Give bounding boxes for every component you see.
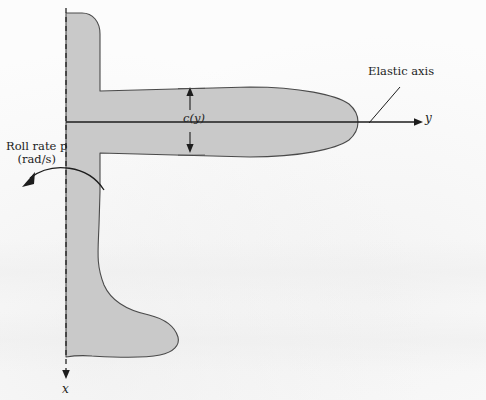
y-axis-label: y <box>425 112 432 126</box>
roll-rate-label: Roll rate p (rad/s) <box>6 140 67 166</box>
x-axis-label: x <box>62 383 69 397</box>
wing-planform-figure: Elastic axis Roll rate p (rad/s) c(y) y … <box>0 0 486 400</box>
roll-rate-label-line2: (rad/s) <box>6 153 67 166</box>
wing-planform-shape <box>66 13 358 357</box>
diagram-canvas <box>0 0 486 400</box>
y-axis-arrowhead <box>414 118 423 126</box>
chord-label: c(y) <box>183 112 205 125</box>
elastic-axis-leader-line <box>369 87 400 123</box>
elastic-axis-label: Elastic axis <box>368 65 434 78</box>
roll-rate-label-line1: Roll rate p <box>6 139 67 153</box>
roll-rate-arrowhead <box>22 172 35 187</box>
x-axis-arrowhead <box>62 370 70 379</box>
